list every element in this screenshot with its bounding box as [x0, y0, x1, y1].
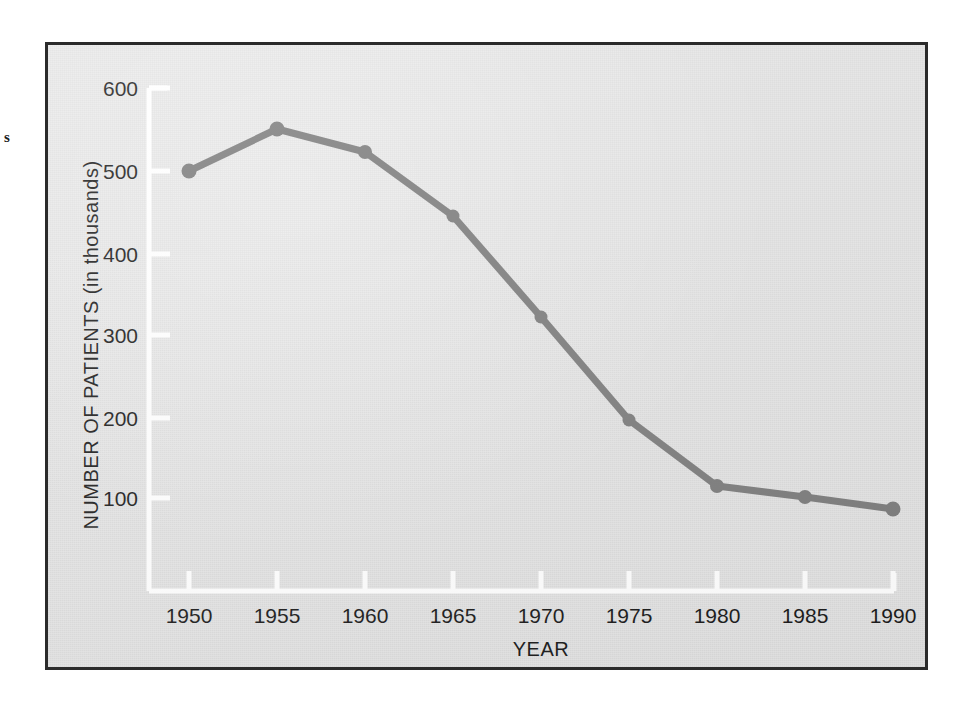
data-point-1990 [886, 502, 901, 517]
x-tick-label-1950: 1950 [166, 604, 213, 627]
y-tick-label-600: 600 [103, 77, 138, 100]
y-axis-title: NUMBER OF PATIENTS (in thousands) [80, 160, 102, 529]
axis-lines [149, 88, 894, 591]
y-tick-label-200: 200 [103, 407, 138, 430]
x-tick-label-1990: 1990 [870, 604, 917, 627]
y-tick-label-100: 100 [103, 487, 138, 510]
x-tick-label-1955: 1955 [254, 604, 301, 627]
figure-plate: 600 500 400 300 200 100 1950 1955 1960 1… [45, 42, 928, 670]
y-tick-label-300: 300 [103, 324, 138, 347]
x-tick-label-1965: 1965 [430, 604, 477, 627]
y-axis-tick-labels: 600 500 400 300 200 100 [103, 77, 138, 510]
data-point-1965 [447, 210, 460, 223]
x-tick-label-1980: 1980 [694, 604, 741, 627]
y-tick-label-400: 400 [103, 243, 138, 266]
data-point-1950 [182, 164, 197, 179]
x-tick-label-1970: 1970 [518, 604, 565, 627]
data-series-number-of-patients [182, 122, 901, 517]
y-axis-ticks [149, 88, 170, 498]
data-point-1960 [358, 145, 372, 159]
x-tick-label-1985: 1985 [782, 604, 829, 627]
x-tick-label-1960: 1960 [342, 604, 389, 627]
data-point-1985 [798, 490, 812, 504]
page-edge-text-fragment: s [4, 130, 10, 145]
data-point-1955 [270, 122, 285, 137]
y-tick-label-500: 500 [103, 160, 138, 183]
x-tick-label-1975: 1975 [606, 604, 653, 627]
x-axis-tick-labels: 1950 1955 1960 1965 1970 1975 1980 1985 … [166, 604, 917, 627]
x-axis-title: YEAR [513, 638, 569, 660]
data-point-1970 [535, 311, 548, 324]
x-axis-ticks [189, 571, 893, 591]
data-point-1975 [623, 414, 636, 427]
line-chart: 600 500 400 300 200 100 1950 1955 1960 1… [48, 45, 928, 670]
data-point-1980 [710, 479, 724, 493]
